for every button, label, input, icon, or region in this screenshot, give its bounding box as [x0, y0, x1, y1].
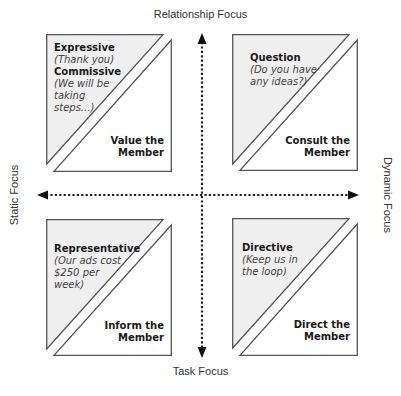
axis-label-dynamic-focus: Dynamic Focus — [382, 157, 394, 233]
quadrant-top-left: Expressive (Thank you) Commissive (We wi… — [46, 34, 172, 171]
action-line: Member — [285, 147, 350, 159]
speech-act-block: Representative (Our ads cost $250 per we… — [54, 243, 140, 291]
example-commissive-line: steps...) — [54, 102, 121, 114]
example-commissive-line: taking — [54, 90, 121, 102]
action-line: Consult the — [285, 135, 350, 147]
action-line: Member — [111, 147, 164, 159]
arrow-right-icon — [348, 191, 359, 200]
quadrant-top-right: Question (Do you have any ideas?) Consul… — [232, 34, 358, 171]
speech-act-commissive: Commissive — [54, 66, 121, 78]
action-direct-the-member: Direct the Member — [294, 319, 350, 343]
example-line: the loop) — [242, 266, 298, 278]
quadrant-bottom-right: Directive (Keep us in the loop) Direct t… — [232, 218, 358, 355]
action-inform-the-member: Inform the Member — [104, 320, 164, 344]
example-line: (Do you have — [250, 64, 317, 76]
speech-act-directive: Directive — [242, 242, 298, 254]
speech-act-representative: Representative — [54, 243, 140, 255]
speech-act-expressive: Expressive — [54, 42, 121, 54]
example-line: (Keep us in — [242, 254, 298, 266]
example-line: week) — [54, 279, 140, 291]
action-line: Value the — [111, 135, 164, 147]
arrow-down-icon — [198, 347, 207, 358]
speech-act-question: Question — [250, 52, 317, 64]
speech-act-block: Expressive (Thank you) Commissive (We wi… — [54, 42, 121, 114]
axis-label-static-focus: Static Focus — [8, 165, 20, 226]
quadrant-bottom-left: Representative (Our ads cost $250 per we… — [46, 219, 172, 356]
action-line: Member — [104, 332, 164, 344]
action-line: Inform the — [104, 320, 164, 332]
action-value-the-member: Value the Member — [111, 135, 164, 159]
arrow-up-icon — [198, 33, 207, 44]
arrow-left-icon — [37, 191, 48, 200]
action-line: Direct the — [294, 319, 350, 331]
axis-label-task-focus: Task Focus — [0, 365, 401, 377]
action-line: Member — [294, 331, 350, 343]
quadrant-diagram: Relationship Focus Task Focus Static Foc… — [0, 0, 401, 396]
axis-label-relationship-focus: Relationship Focus — [0, 8, 401, 20]
example-commissive-line: (We will be — [54, 78, 121, 90]
example-expressive: (Thank you) — [54, 54, 121, 66]
example-line: (Our ads cost — [54, 255, 140, 267]
example-line: $250 per — [54, 267, 140, 279]
speech-act-block: Question (Do you have any ideas?) — [250, 52, 317, 88]
speech-act-block: Directive (Keep us in the loop) — [242, 242, 298, 278]
action-consult-the-member: Consult the Member — [285, 135, 350, 159]
example-line: any ideas?) — [250, 76, 317, 88]
